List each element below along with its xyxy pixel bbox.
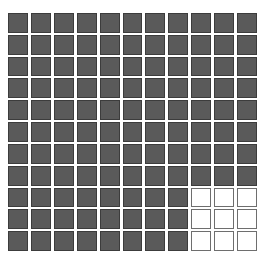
filled-cell: [123, 78, 143, 98]
filled-cell: [77, 100, 97, 120]
empty-cell: [191, 209, 211, 229]
filled-cell: [237, 100, 257, 120]
filled-cell: [54, 166, 74, 186]
filled-cell: [168, 209, 188, 229]
filled-cell: [145, 122, 165, 142]
filled-cell: [214, 35, 234, 55]
filled-cell: [77, 144, 97, 164]
filled-cell: [8, 13, 28, 33]
filled-cell: [100, 13, 120, 33]
filled-cell: [8, 122, 28, 142]
filled-cell: [31, 57, 51, 77]
filled-cell: [237, 166, 257, 186]
filled-cell: [31, 231, 51, 251]
filled-cell: [123, 13, 143, 33]
filled-cell: [237, 57, 257, 77]
filled-cell: [214, 144, 234, 164]
filled-cell: [8, 209, 28, 229]
filled-cell: [31, 122, 51, 142]
filled-cell: [8, 100, 28, 120]
filled-cell: [237, 122, 257, 142]
filled-cell: [31, 188, 51, 208]
filled-cell: [123, 35, 143, 55]
filled-cell: [77, 231, 97, 251]
filled-cell: [123, 166, 143, 186]
filled-cell: [191, 35, 211, 55]
filled-cell: [145, 100, 165, 120]
filled-cell: [145, 35, 165, 55]
filled-cell: [168, 188, 188, 208]
filled-cell: [123, 100, 143, 120]
empty-cell: [214, 188, 234, 208]
filled-cell: [191, 122, 211, 142]
filled-cell: [191, 57, 211, 77]
filled-cell: [8, 57, 28, 77]
filled-cell: [8, 166, 28, 186]
filled-cell: [123, 144, 143, 164]
filled-cell: [168, 100, 188, 120]
filled-cell: [237, 78, 257, 98]
filled-cell: [168, 57, 188, 77]
filled-cell: [54, 209, 74, 229]
filled-cell: [77, 122, 97, 142]
filled-cell: [191, 144, 211, 164]
filled-cell: [168, 13, 188, 33]
filled-cell: [168, 144, 188, 164]
filled-cell: [191, 166, 211, 186]
filled-cell: [145, 188, 165, 208]
empty-cell: [237, 231, 257, 251]
filled-cell: [100, 78, 120, 98]
filled-cell: [77, 78, 97, 98]
filled-cell: [145, 209, 165, 229]
filled-cell: [77, 209, 97, 229]
filled-cell: [8, 35, 28, 55]
waffle-chart: [8, 13, 257, 251]
filled-cell: [31, 144, 51, 164]
filled-cell: [191, 13, 211, 33]
filled-cell: [54, 13, 74, 33]
filled-cell: [145, 78, 165, 98]
filled-cell: [145, 57, 165, 77]
empty-cell: [191, 188, 211, 208]
filled-cell: [100, 166, 120, 186]
filled-cell: [214, 122, 234, 142]
filled-cell: [100, 35, 120, 55]
filled-cell: [214, 57, 234, 77]
filled-cell: [77, 188, 97, 208]
filled-cell: [54, 122, 74, 142]
filled-cell: [54, 100, 74, 120]
filled-cell: [31, 166, 51, 186]
filled-cell: [100, 209, 120, 229]
filled-cell: [77, 166, 97, 186]
filled-cell: [145, 13, 165, 33]
filled-cell: [31, 13, 51, 33]
filled-cell: [54, 78, 74, 98]
filled-cell: [191, 78, 211, 98]
filled-cell: [100, 100, 120, 120]
filled-cell: [237, 13, 257, 33]
empty-cell: [214, 231, 234, 251]
filled-cell: [123, 209, 143, 229]
filled-cell: [8, 231, 28, 251]
filled-cell: [54, 35, 74, 55]
filled-cell: [214, 78, 234, 98]
filled-cell: [168, 122, 188, 142]
filled-cell: [77, 57, 97, 77]
filled-cell: [214, 166, 234, 186]
filled-cell: [168, 78, 188, 98]
filled-cell: [77, 13, 97, 33]
empty-cell: [214, 209, 234, 229]
filled-cell: [31, 100, 51, 120]
filled-cell: [123, 188, 143, 208]
filled-cell: [100, 231, 120, 251]
filled-cell: [31, 209, 51, 229]
filled-cell: [31, 35, 51, 55]
filled-cell: [123, 231, 143, 251]
filled-cell: [145, 166, 165, 186]
filled-cell: [31, 78, 51, 98]
filled-cell: [54, 188, 74, 208]
filled-cell: [123, 122, 143, 142]
filled-cell: [77, 35, 97, 55]
filled-cell: [100, 144, 120, 164]
filled-cell: [123, 57, 143, 77]
